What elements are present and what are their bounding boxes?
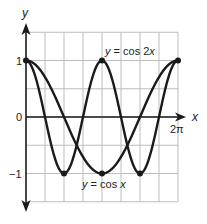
x-tick-2pi: 2π — [170, 123, 184, 135]
label-cos-x: y = cos x — [81, 178, 126, 190]
key-point-dot — [99, 58, 105, 64]
y-tick-1: 1 — [16, 55, 22, 67]
key-point-dot — [99, 171, 105, 177]
y-axis-label: y — [21, 6, 29, 20]
label-cos-2x-x: x — [148, 45, 155, 57]
x-axis-label: x — [191, 110, 199, 124]
y-tick-0: 0 — [16, 111, 22, 123]
y-tick-neg1: −1 — [9, 168, 22, 180]
label-cos-x-text: = cos — [88, 178, 121, 190]
label-cos-2x-text: = cos 2 — [111, 45, 150, 57]
key-point-dot — [23, 58, 29, 64]
key-point-dot — [175, 58, 181, 64]
chart: x y 2π 1 0 −1 y = cos 2x y = cos x — [0, 0, 207, 224]
key-point-dot — [61, 171, 67, 177]
key-point-dot — [137, 171, 143, 177]
label-cos-2x: y = cos 2x — [104, 45, 155, 57]
label-cos-x-x: x — [119, 178, 126, 190]
